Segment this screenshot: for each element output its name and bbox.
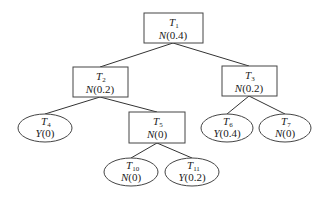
edge-t5-t10 <box>131 143 157 158</box>
edge-t1-t3 <box>173 43 249 66</box>
node-t6: T6 Y(0.4) <box>201 114 253 142</box>
svg-text:Y(0.4): Y(0.4) <box>213 127 241 140</box>
svg-text:N(0.4): N(0.4) <box>158 29 188 42</box>
svg-text:N(0): N(0) <box>120 171 142 184</box>
svg-text:Y(0.2): Y(0.2) <box>178 171 206 184</box>
node-t11: T11 Y(0.2) <box>165 158 219 186</box>
edge-t3-t6 <box>227 96 249 114</box>
svg-text:N(0): N(0) <box>274 127 296 140</box>
node-t7: T7 N(0) <box>259 114 311 142</box>
node-t10: T10 N(0) <box>104 158 158 186</box>
edge-t1-t2 <box>100 43 173 67</box>
node-t1: T1 N(0.4) <box>144 13 203 43</box>
edge-t2-t4 <box>45 97 100 114</box>
node-t4: T4 Y(0) <box>18 114 72 142</box>
node-t5: T5 N(0) <box>129 112 185 143</box>
edge-t5-t11 <box>157 143 192 158</box>
decision-tree-diagram: T1 N(0.4) T2 N(0.2) T3 N(0.2) T4 Y(0) T5… <box>0 0 324 203</box>
edge-t2-t5 <box>100 97 157 112</box>
edge-t3-t7 <box>249 96 285 114</box>
node-t2: T2 N(0.2) <box>73 67 128 97</box>
svg-text:N(0): N(0) <box>146 128 168 141</box>
node-t3: T3 N(0.2) <box>222 66 277 96</box>
svg-text:N(0.2): N(0.2) <box>85 83 115 96</box>
svg-text:Y(0): Y(0) <box>36 127 55 140</box>
svg-text:N(0.2): N(0.2) <box>234 82 264 95</box>
